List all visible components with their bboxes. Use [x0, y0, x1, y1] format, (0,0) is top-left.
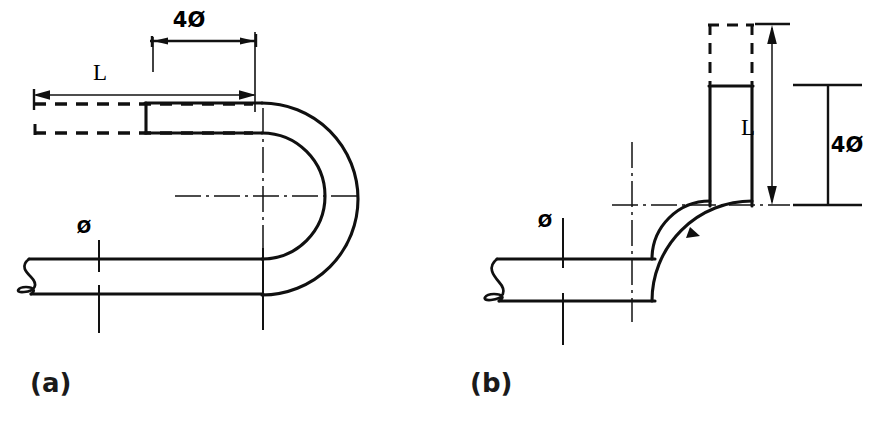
panel-b-dim-L	[755, 24, 790, 205]
panel-b-group: Ø L 4Ø (b)	[470, 24, 863, 398]
panel-a-dim-4phi	[150, 32, 257, 112]
break-line-symbol-b	[485, 259, 504, 301]
dim-L-arrow-right	[239, 90, 256, 100]
elbow-outer-arc	[652, 201, 752, 301]
panel-a-lower-leg	[29, 259, 263, 294]
panel-a-phantom-tube	[34, 104, 253, 141]
panel-b-label-L: L	[741, 115, 755, 140]
dim-L-arrow-left	[33, 90, 50, 100]
break-line-symbol	[18, 259, 35, 294]
panel-b-label-4phi: 4Ø	[831, 133, 864, 157]
dim-4phi-arrow-right	[240, 37, 255, 44]
panel-b-phantom-tube	[708, 24, 754, 84]
dim-L-arrow-bottom	[767, 186, 777, 205]
panel-b-caption: (b)	[470, 368, 512, 398]
panel-a-label-L: L	[93, 60, 107, 85]
panel-a-caption: (a)	[30, 368, 71, 398]
panel-a-label-4phi: 4Ø	[173, 8, 206, 32]
technical-drawing-canvas: 4Ø L	[0, 0, 885, 424]
u-bend-outer-arc	[262, 103, 358, 295]
panel-b-label-phi: Ø	[538, 211, 552, 231]
panel-a-upper-leg	[145, 103, 262, 133]
dim-4phi-arrow-left	[153, 37, 168, 44]
panel-b-vertical-leg	[709, 85, 753, 206]
elbow-tangent-arrow	[686, 227, 700, 238]
panel-a-label-phi: Ø	[77, 217, 91, 237]
panel-a-group: 4Ø L	[18, 8, 362, 398]
dim-L-arrow-top	[767, 25, 777, 44]
figure-root: 4Ø L	[0, 0, 885, 424]
